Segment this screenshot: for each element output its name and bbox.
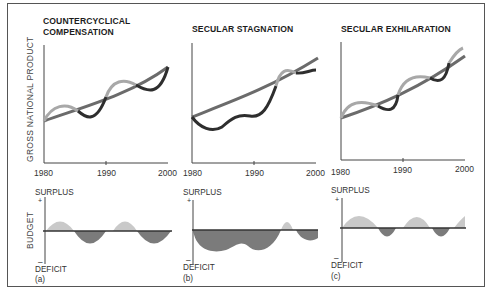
panel-b-deficit-area: [193, 230, 281, 251]
panel-a-plus-sign: +: [38, 197, 42, 204]
panel-a-tag: (a): [35, 275, 45, 284]
panel-a-surplus-area: [46, 222, 74, 232]
panel-b-tick-1980: 1980: [183, 168, 202, 178]
panel-c-surplus-area: [342, 216, 378, 228]
panel-b-gnp-chart: [192, 43, 318, 165]
panel-b-deficit-label: DEFICIT: [183, 263, 215, 272]
panel-c-tick-1980: 1980: [331, 167, 350, 177]
panel-c-tick-2000: 2000: [455, 164, 474, 174]
panel-c-budget-chart: [340, 198, 466, 262]
panel-c-surplus-label: SURPLUS: [331, 186, 370, 195]
panel-a-gnp-chart: [44, 45, 168, 165]
panel-b-tag: (b): [183, 274, 193, 283]
panel-c-deficit-label: DEFICIT: [331, 261, 363, 270]
panel-b-actual-below: [192, 86, 276, 130]
panel-c-plus-sign: +: [335, 196, 339, 203]
panel-c-tag: (c): [331, 272, 341, 281]
panel-c-gnp-chart: [341, 42, 465, 162]
panel-b-surplus-label: SURPLUS: [183, 188, 222, 197]
panel-b-trend-line: [192, 58, 318, 117]
panel-a-tick-1980: 1980: [34, 168, 53, 178]
panel-a-surplus-label: SURPLUS: [35, 188, 74, 197]
chart-canvas: [0, 0, 491, 294]
panel-a-budget-chart: [43, 197, 172, 264]
panel-b-tick-2000: 2000: [306, 168, 325, 178]
panel-b-actual-above: [276, 71, 296, 86]
panel-c-deficit-area: [378, 228, 396, 237]
panel-a-deficit-label: DEFICIT: [35, 265, 67, 274]
panel-a-tick-2000: 2000: [158, 168, 177, 178]
panel-b-tick-1990: 1990: [245, 168, 264, 178]
panel-b-plus-sign: +: [187, 197, 191, 204]
panel-b-budget-chart: [192, 200, 318, 264]
panel-b-surplus-area: [281, 222, 293, 230]
panel-a-tick-1990: 1990: [97, 168, 116, 178]
panel-c-tick-1990: 1990: [393, 165, 412, 175]
panel-a-deficit-area: [74, 231, 106, 244]
